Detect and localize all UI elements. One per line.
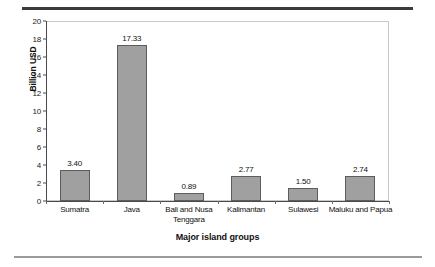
bar-series: 3.4017.330.892.771.502.74 xyxy=(46,21,389,201)
top-rule xyxy=(22,7,413,10)
bar-value-label: 3.40 xyxy=(67,159,82,168)
bar-value-label: 2.74 xyxy=(353,165,368,174)
x-tick-mark xyxy=(218,201,219,204)
bar xyxy=(117,45,147,201)
x-tick-mark xyxy=(332,201,333,204)
bar-value-label: 1.50 xyxy=(296,177,311,186)
bar xyxy=(231,176,261,201)
bar xyxy=(288,188,318,202)
bar-value-label: 17.33 xyxy=(122,34,141,43)
bar-group: 2.77 xyxy=(218,21,275,201)
bar-group: 2.74 xyxy=(332,21,389,201)
chart-figure: Billion USD 02468101214161820 3.4017.330… xyxy=(0,0,435,267)
bar-value-label: 2.77 xyxy=(239,165,254,174)
x-tick-mark xyxy=(46,201,47,204)
x-tick-mark xyxy=(103,201,104,204)
x-tick-mark xyxy=(275,201,276,204)
bar-group: 1.50 xyxy=(275,21,332,201)
bottom-rule xyxy=(14,256,422,258)
bar-value-label: 0.89 xyxy=(182,182,197,191)
bar xyxy=(60,170,90,201)
bar-group: 3.40 xyxy=(46,21,103,201)
x-tick-mark xyxy=(160,201,161,204)
x-axis-title: Major island groups xyxy=(0,232,435,242)
x-category-label: Maluku and Papua xyxy=(326,205,394,215)
x-tick-mark xyxy=(389,201,390,204)
bar-group: 17.33 xyxy=(103,21,160,201)
bar-group: 0.89 xyxy=(160,21,217,201)
bar xyxy=(174,193,204,201)
bar xyxy=(345,176,375,201)
